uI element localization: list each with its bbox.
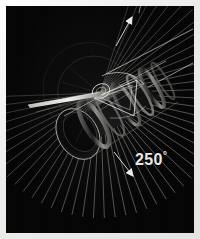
sweep-start-pointer <box>116 17 132 46</box>
screenshot-root: 250° <box>0 0 200 239</box>
sweep-ray <box>100 6 177 93</box>
photo-canvas: 250° <box>6 6 194 233</box>
technical-diagram <box>6 6 194 233</box>
